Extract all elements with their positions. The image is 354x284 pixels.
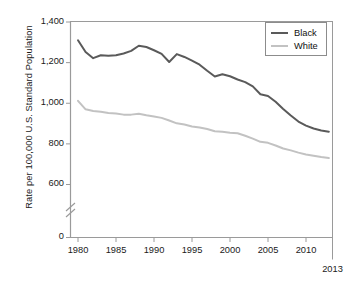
legend-item-black[interactable]: Black bbox=[271, 26, 320, 39]
legend-item-white[interactable]: White bbox=[271, 39, 320, 52]
chart-container: Rate per 100,000 U.S. Standard Populatio… bbox=[0, 0, 354, 284]
chart-legend: BlackWhite bbox=[265, 22, 327, 56]
legend-swatch-white bbox=[271, 45, 288, 47]
legend-label: Black bbox=[294, 28, 317, 38]
legend-swatch-black bbox=[271, 32, 288, 34]
series-line-white bbox=[78, 101, 329, 158]
legend-label: White bbox=[294, 41, 318, 51]
